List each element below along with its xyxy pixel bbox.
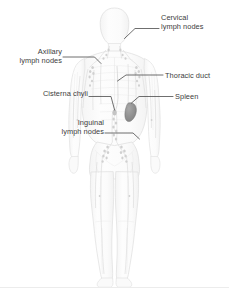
label-spleen: Spleen xyxy=(175,92,198,101)
label-axillary-lymph-nodes: Axillary lymph nodes xyxy=(0,47,62,65)
label-cisterna-chyli: Cisterna chyli xyxy=(0,89,88,98)
label-cervical-lymph-nodes: Cervical lymph nodes xyxy=(161,13,203,31)
label-thoracic-duct: Thoracic duct xyxy=(165,71,210,80)
cisterna-chyli-node xyxy=(113,110,117,116)
body-silhouette xyxy=(69,8,160,287)
lymphatic-system-diagram: Cervical lymph nodes Axillary lymph node… xyxy=(0,0,229,290)
anatomy-illustration xyxy=(0,0,229,290)
right-hand-shape xyxy=(151,156,160,173)
right-foot-shape xyxy=(116,278,132,287)
left-foot-shape xyxy=(97,278,113,287)
bottom-rule xyxy=(0,287,229,288)
label-inguinal-lymph-nodes: Inguinal lymph nodes xyxy=(16,118,104,136)
left-hand-shape xyxy=(69,156,78,173)
head-shape xyxy=(100,8,129,46)
leader-cervical xyxy=(125,29,160,39)
